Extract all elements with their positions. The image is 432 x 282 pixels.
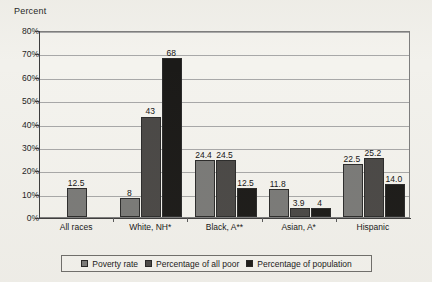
category-separator — [336, 218, 337, 222]
gridline — [40, 32, 409, 33]
bar-value-label: 24.5 — [207, 150, 243, 160]
legend-swatch-icon — [246, 260, 253, 267]
category-label: Black, A** — [187, 222, 261, 232]
bar — [67, 188, 87, 217]
category-separator — [113, 218, 114, 222]
category-label: All races — [39, 222, 113, 232]
bar — [290, 208, 310, 217]
bar-value-label: 25.2 — [355, 148, 391, 158]
bar-chart: Percent 0%10%20%30%40%50%60%70%80% 12.58… — [0, 0, 432, 282]
plot-area — [39, 31, 410, 218]
bar — [311, 208, 331, 217]
legend-label: Poverty rate — [92, 259, 138, 269]
legend-item[interactable]: Percentage of all poor — [145, 259, 239, 269]
y-tick-label: 80% — [5, 26, 39, 36]
gridline — [40, 126, 409, 127]
y-tick-label: 40% — [5, 120, 39, 130]
y-tick-label: 10% — [5, 190, 39, 200]
category-label: White, NH* — [113, 222, 187, 232]
bar — [195, 160, 215, 217]
legend-label: Percentage of population — [257, 259, 352, 269]
y-tick-label: 60% — [5, 73, 39, 83]
category-separator — [187, 218, 188, 222]
bar-value-label: 12.5 — [228, 178, 264, 188]
category-label: Hispanic — [336, 222, 410, 232]
gridline — [40, 79, 409, 80]
bar — [237, 188, 257, 217]
bar — [216, 160, 236, 217]
category-separator — [262, 218, 263, 222]
bar-value-label: 8 — [111, 188, 147, 198]
gridline — [40, 55, 409, 56]
bar — [385, 184, 405, 217]
legend-item[interactable]: Poverty rate — [81, 259, 138, 269]
legend-item[interactable]: Percentage of population — [246, 259, 352, 269]
y-tick-label: 20% — [5, 166, 39, 176]
bar-value-label: 43 — [132, 106, 168, 116]
y-axis: 0%10%20%30%40%50%60%70%80% — [0, 0, 39, 282]
y-tick-label: 70% — [5, 49, 39, 59]
x-axis-line — [39, 218, 411, 219]
gridline — [40, 102, 409, 103]
y-tick-label: 30% — [5, 143, 39, 153]
y-tick-label: 0% — [5, 213, 39, 223]
y-axis-line — [39, 31, 40, 219]
legend-swatch-icon — [81, 260, 88, 267]
bar-value-label: 68 — [153, 48, 189, 58]
bar-value-label: 14.0 — [376, 174, 412, 184]
bar-value-label: 11.8 — [260, 179, 296, 189]
bar-value-label: 4 — [302, 198, 338, 208]
bar — [343, 164, 363, 217]
legend-label: Percentage of all poor — [156, 259, 239, 269]
y-tick-label: 50% — [5, 96, 39, 106]
bar — [364, 158, 384, 217]
bar-value-label: 12.5 — [58, 178, 94, 188]
legend-swatch-icon — [145, 260, 152, 267]
category-label: Asian, A* — [262, 222, 336, 232]
bar — [141, 117, 161, 218]
bar — [162, 58, 182, 217]
chart-legend: Poverty ratePercentage of all poorPercen… — [61, 255, 372, 272]
bar — [120, 198, 140, 217]
